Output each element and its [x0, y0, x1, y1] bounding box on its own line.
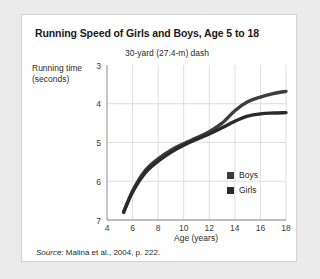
x-axis-title: Age (years): [106, 233, 286, 243]
legend-label-girls: Girls: [239, 185, 256, 195]
source-label: Source:: [36, 248, 64, 257]
x-tick-label: 4: [105, 223, 110, 233]
legend-swatch-boys: [227, 172, 234, 179]
figure-card: Running Speed of Girls and Boys, Age 5 t…: [21, 14, 297, 262]
y-tick-label: 6: [96, 177, 101, 187]
x-tick-label: 10: [179, 223, 189, 233]
y-tick-label: 7: [96, 216, 101, 226]
plot-area: 345674681012141618: [22, 15, 298, 263]
x-tick-label: 16: [256, 223, 266, 233]
x-tick-label: 8: [156, 223, 161, 233]
source-text: Malina et al., 2004, p. 222.: [64, 248, 161, 257]
legend-item-girls: Girls: [227, 185, 258, 195]
chart-legend: Boys Girls: [227, 170, 258, 200]
source-citation: Source: Malina et al., 2004, p. 222.: [36, 248, 160, 257]
x-tick-label: 18: [281, 223, 291, 233]
series-line-girls: [124, 113, 286, 213]
x-tick-label: 6: [130, 223, 135, 233]
legend-swatch-girls: [227, 187, 234, 194]
series-line-boys: [124, 91, 286, 212]
legend-item-boys: Boys: [227, 170, 258, 180]
y-tick-label: 4: [96, 99, 101, 109]
legend-label-boys: Boys: [239, 170, 258, 180]
x-tick-label: 12: [205, 223, 215, 233]
y-tick-label: 3: [96, 61, 101, 71]
chart-svg: 345674681012141618: [22, 15, 298, 263]
x-tick-label: 14: [230, 223, 240, 233]
y-tick-label: 5: [96, 138, 101, 148]
